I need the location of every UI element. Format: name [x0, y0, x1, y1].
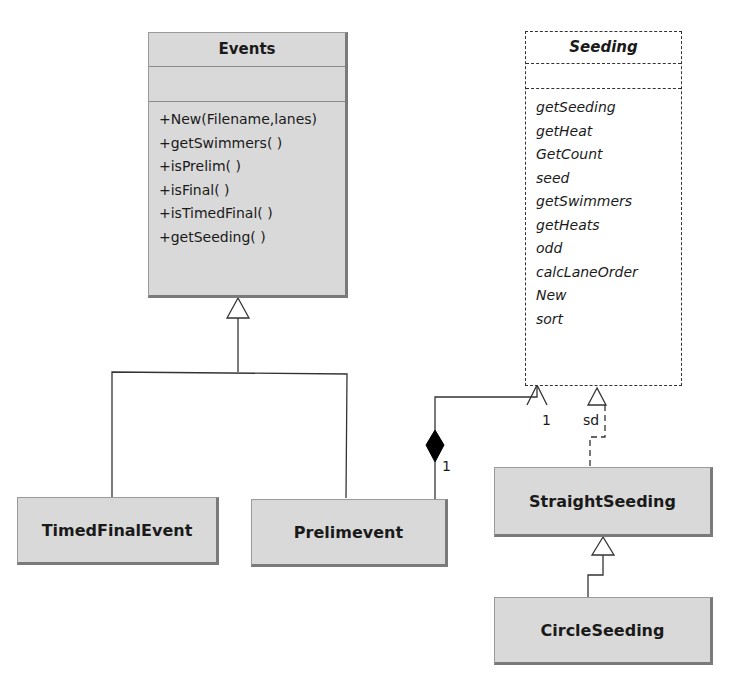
- attributes-section: [526, 63, 681, 88]
- attributes-section: [149, 66, 345, 101]
- multiplicity-label: 1: [542, 412, 551, 428]
- operation: +getSeeding( ): [159, 226, 345, 250]
- class-timed-final-event[interactable]: TimedFinalEvent: [17, 497, 219, 565]
- operation: New: [536, 284, 681, 308]
- class-name: StraightSeeding: [529, 492, 676, 511]
- operation: +isPrelim( ): [159, 155, 345, 179]
- class-name: CircleSeeding: [541, 621, 665, 640]
- operation: seed: [536, 167, 681, 191]
- class-name: Events: [149, 33, 345, 66]
- class-prelim-event[interactable]: Prelimevent: [251, 499, 448, 567]
- class-name: TimedFinalEvent: [42, 521, 193, 540]
- operation: GetCount: [536, 143, 681, 167]
- realization-label: sd: [583, 412, 599, 428]
- operation: sort: [536, 308, 681, 332]
- operation: getHeats: [536, 214, 681, 238]
- operation: odd: [536, 237, 681, 261]
- multiplicity-label: 1: [442, 458, 451, 474]
- operation: getSeeding: [536, 96, 681, 120]
- operation: calcLaneOrder: [536, 261, 681, 285]
- class-straight-seeding[interactable]: StraightSeeding: [494, 467, 713, 537]
- class-seeding[interactable]: Seeding getSeeding getHeat GetCount seed…: [525, 31, 682, 386]
- operation: +isTimedFinal( ): [159, 202, 345, 226]
- operations-section: +New(Filename,lanes) +getSwimmers( ) +is…: [149, 101, 345, 249]
- operation: getSwimmers: [536, 190, 681, 214]
- operation: +isFinal( ): [159, 179, 345, 203]
- class-events[interactable]: Events +New(Filename,lanes) +getSwimmers…: [148, 32, 348, 298]
- operation: getHeat: [536, 120, 681, 144]
- class-circle-seeding[interactable]: CircleSeeding: [494, 597, 713, 665]
- operation: +getSwimmers( ): [159, 132, 345, 156]
- class-name: Seeding: [526, 32, 681, 63]
- class-name: Prelimevent: [294, 523, 403, 542]
- operations-section: getSeeding getHeat GetCount seed getSwim…: [526, 88, 681, 331]
- operation: +New(Filename,lanes): [159, 108, 345, 132]
